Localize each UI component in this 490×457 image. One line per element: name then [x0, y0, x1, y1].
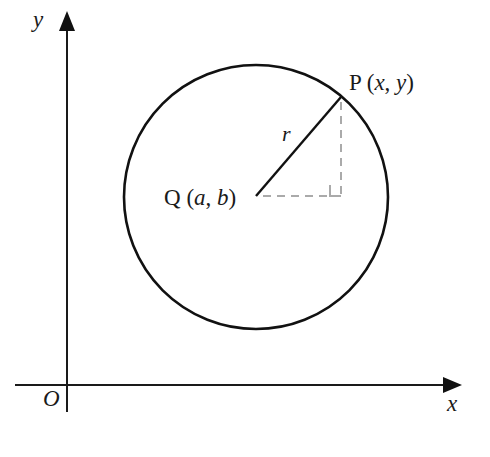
diagram-canvas [0, 0, 490, 457]
radius-label: r [282, 123, 291, 145]
point-q-a-var: a [194, 185, 206, 210]
point-p-label: P (x, y) [349, 71, 414, 94]
y-axis-label: y [33, 8, 43, 31]
point-p-x-var: x [374, 70, 384, 95]
point-q-label: Q (a, b) [164, 186, 236, 209]
point-p-paren-close: ) [406, 70, 414, 95]
point-q-paren-close: ) [229, 185, 237, 210]
right-angle-marker [330, 185, 341, 196]
point-q-b-var: b [217, 185, 229, 210]
point-q-comma: , [206, 185, 218, 210]
point-p-name: P [349, 70, 367, 95]
radius-line [256, 97, 341, 196]
x-axis-label: x [447, 392, 457, 415]
point-q-paren-open: ( [186, 185, 194, 210]
origin-label: O [43, 387, 60, 410]
point-q-name: Q [164, 185, 186, 210]
circle-diagram-figure: y x O r P (x, y) Q (a, b) [0, 0, 490, 457]
point-p-y-var: y [396, 70, 406, 95]
point-p-comma: , [385, 70, 397, 95]
y-axis-arrowhead [59, 11, 75, 31]
